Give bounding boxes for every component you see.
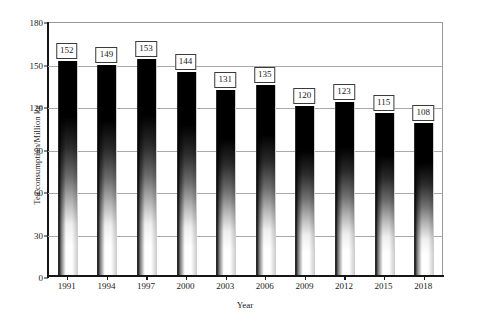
y-tick-mark [44,235,48,236]
x-tick-label: 2009 [295,281,313,291]
bar [137,59,157,276]
bar [335,102,355,276]
bar-value-label: 123 [333,84,355,100]
x-tick-mark [146,276,147,280]
y-tick-mark [44,23,48,24]
bar-value-label: 153 [135,41,157,57]
bar-value-label: 120 [294,88,316,104]
bar-value-label: 152 [56,43,78,59]
bar [375,113,395,276]
bar [295,106,315,276]
x-tick-mark [344,276,345,280]
bar [97,65,117,276]
x-tick-mark [186,276,187,280]
x-tick-label: 2018 [414,281,432,291]
bar [414,123,434,276]
bar-value-label: 115 [373,95,394,111]
x-tick-mark [424,276,425,280]
bar-value-label: 135 [254,67,276,83]
y-tick-mark [44,65,48,66]
x-tick-label: 2000 [177,281,195,291]
x-tick-mark [226,276,227,280]
x-tick-label: 2006 [256,281,274,291]
bar [256,85,276,276]
x-tick-mark [265,276,266,280]
bar [58,61,78,276]
y-tick-label: 0 [39,273,44,283]
y-tick-mark [44,278,48,279]
bar-value-label: 149 [96,47,118,63]
x-tick-mark [107,276,108,280]
x-axis-title: Year [47,300,443,310]
bar-value-label: 144 [175,54,197,70]
x-tick-label: 2015 [375,281,393,291]
y-tick-mark [44,150,48,151]
bar-value-label: 108 [412,105,434,121]
bar [177,72,197,276]
x-tick-mark [67,276,68,280]
y-tick-label: 180 [30,18,44,28]
bar-value-label: 131 [214,72,236,88]
x-tick-label: 2012 [335,281,353,291]
y-tick-label: 60 [34,188,43,198]
y-tick-mark [44,193,48,194]
x-tick-label: 1991 [58,281,76,291]
x-tick-label: 1994 [97,281,115,291]
y-tick-label: 120 [30,103,44,113]
y-tick-label: 150 [30,61,44,71]
y-tick-label: 30 [34,231,43,241]
x-tick-label: 1997 [137,281,155,291]
chart-figure: Tea consumption/Million kg Year 03060901… [0,0,479,323]
y-tick-label: 90 [34,146,43,156]
x-tick-mark [384,276,385,280]
y-tick-mark [44,108,48,109]
x-tick-mark [305,276,306,280]
bar [216,90,236,276]
x-tick-label: 2003 [216,281,234,291]
